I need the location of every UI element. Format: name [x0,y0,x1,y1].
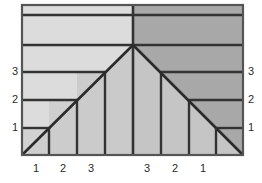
axis-label-left-1: 1 [4,122,18,133]
axis-label-right-2: 2 [248,94,262,105]
axis-label-bottom-right-2: 2 [168,163,182,174]
axis-label-right-3: 3 [248,66,262,77]
geometric-figure [0,0,262,183]
diagram-stage: 3 2 1 3 2 1 1 2 3 3 2 1 [0,0,262,183]
axis-label-bottom-left-1: 1 [29,163,43,174]
axis-label-bottom-left-3: 3 [84,163,98,174]
axis-label-bottom-right-3: 3 [140,163,154,174]
axis-label-left-3: 3 [4,66,18,77]
axis-label-bottom-right-1: 1 [196,163,210,174]
axis-label-bottom-left-2: 2 [56,163,70,174]
axis-label-right-1: 1 [248,122,262,133]
axis-label-left-2: 2 [4,94,18,105]
